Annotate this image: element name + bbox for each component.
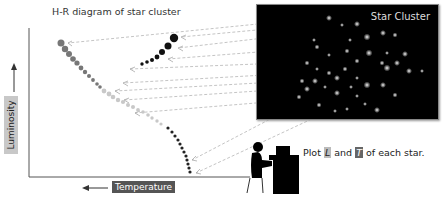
arrow-left-icon (82, 185, 108, 191)
arrow-up-icon (11, 63, 17, 92)
person-at-computer-icon (247, 142, 299, 194)
caption-middle: and (331, 147, 355, 158)
y-axis-label-text: Luminosity (6, 100, 16, 149)
caption: Plot L and T of each star. (303, 147, 425, 158)
arrowheads (68, 35, 201, 174)
main-sequence-upper (58, 40, 102, 89)
star-field (257, 5, 438, 119)
x-axis-label: Temperature (112, 181, 175, 193)
caption-suffix: of each star. (363, 147, 425, 158)
temperature-variable: T (355, 147, 363, 158)
y-axis-label: Luminosity (4, 96, 18, 154)
main-sequence-lower (166, 126, 191, 173)
giant-branch (140, 34, 178, 66)
main-sequence-mid (102, 89, 163, 126)
caption-prefix: Plot (303, 147, 324, 158)
star-cluster-image: Star Cluster (256, 4, 439, 120)
